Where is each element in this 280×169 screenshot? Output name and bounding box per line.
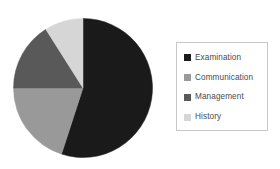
legend-item-management[interactable]: Management xyxy=(184,88,264,106)
legend-swatch-management xyxy=(184,94,191,101)
legend-item-examination[interactable]: Examination xyxy=(184,49,264,67)
pie-chart-svg xyxy=(13,18,153,158)
chart-legend: Examination Communication Management His… xyxy=(176,42,268,131)
legend-item-history[interactable]: History xyxy=(184,108,264,126)
legend-swatch-examination xyxy=(184,54,191,61)
legend-swatch-communication xyxy=(184,74,191,81)
legend-item-list: Examination Communication Management His… xyxy=(184,48,264,127)
legend-item-communication[interactable]: Communication xyxy=(184,69,264,87)
pie-chart-figure: Examination Communication Management His… xyxy=(0,0,280,169)
pie-slices xyxy=(14,19,153,158)
legend-label-examination: Examination xyxy=(195,54,241,62)
legend-label-communication: Communication xyxy=(195,74,253,82)
pie-chart-plot-area xyxy=(13,18,153,158)
legend-swatch-history xyxy=(184,114,191,121)
legend-label-management: Management xyxy=(195,93,244,101)
legend-label-history: History xyxy=(195,113,221,121)
